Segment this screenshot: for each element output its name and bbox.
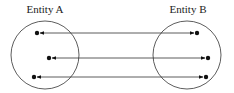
entity-mapping-diagram: Entity A Entity B [0, 0, 234, 93]
entity-b-label: Entity B [170, 3, 207, 15]
entity-a-point-2 [47, 56, 51, 60]
entity-b-point-2 [206, 56, 210, 60]
entity-b-point-1 [195, 31, 199, 35]
entity-b-point-3 [204, 75, 208, 79]
entity-b-circle [153, 21, 221, 89]
entity-a-point-3 [32, 75, 36, 79]
entity-a-label: Entity A [27, 3, 64, 15]
entity-a-circle [11, 21, 79, 89]
entity-a-point-1 [35, 31, 39, 35]
